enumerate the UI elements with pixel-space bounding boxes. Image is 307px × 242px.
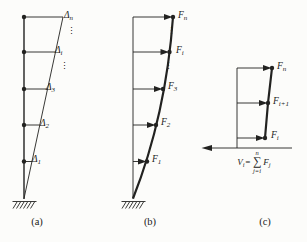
node-dot [22, 87, 26, 91]
node-dot [266, 101, 270, 105]
node-dot [161, 87, 165, 91]
equation-lhs: Vi= [237, 157, 250, 167]
node-dot [22, 50, 26, 54]
node-dot [154, 123, 158, 127]
caption-b: (b) [138, 216, 162, 227]
node-dot [22, 159, 26, 163]
summation-symbol: n ∑ j=i [253, 150, 262, 174]
displacement-label-i: Δi [55, 45, 63, 56]
story-shear-equation: Vi= n ∑ j=i Fj [218, 150, 290, 174]
node-dot [145, 159, 149, 163]
displacement-label-1: Δ1 [32, 154, 41, 165]
force-label-3: F3 [168, 81, 177, 92]
displacement-label-2: Δ2 [40, 118, 49, 129]
node-dot [270, 66, 274, 70]
panel-b-drawing [122, 14, 176, 209]
panel-a-drawing [13, 15, 64, 209]
node-dot [171, 15, 175, 19]
ellipsis-vertical: ⋮ [164, 61, 173, 71]
force-label-1: F1 [152, 154, 161, 165]
caption-a: (a) [25, 216, 49, 227]
force-label-2: F2 [161, 117, 170, 128]
force-label-n: Fn [277, 61, 286, 72]
force-label-i-plus-1: Fi+1 [273, 96, 289, 107]
ellipsis-vertical: ⋮ [60, 61, 69, 71]
equation-rhs: Fj [263, 157, 270, 167]
force-label-i: Fi [271, 130, 279, 141]
ellipsis-vertical: ⋮ [67, 26, 76, 36]
node-dot [22, 15, 26, 19]
displacement-label-3: Δ3 [46, 82, 55, 93]
fixed-support [13, 202, 37, 209]
floor-lines [24, 17, 63, 162]
node-dot [167, 50, 171, 54]
deflected-shape-curve [133, 17, 173, 199]
node-dot [263, 136, 267, 140]
force-label-i: Fi [176, 45, 184, 56]
shear-arrowhead [202, 145, 213, 151]
fixed-support [122, 202, 146, 209]
displacement-label-n: Δn [64, 10, 73, 21]
caption-c: (c) [253, 216, 277, 227]
force-label-n: Fn [178, 10, 187, 21]
node-dot [22, 123, 26, 127]
ellipsis-vertical: ⋮ [167, 26, 176, 36]
seismic-lateral-force-diagram: Δn ⋮ Δi ⋮ Δ3 Δ2 Δ1 Fn ⋮ Fi ⋮ F3 F2 F1 Fn… [0, 0, 307, 242]
